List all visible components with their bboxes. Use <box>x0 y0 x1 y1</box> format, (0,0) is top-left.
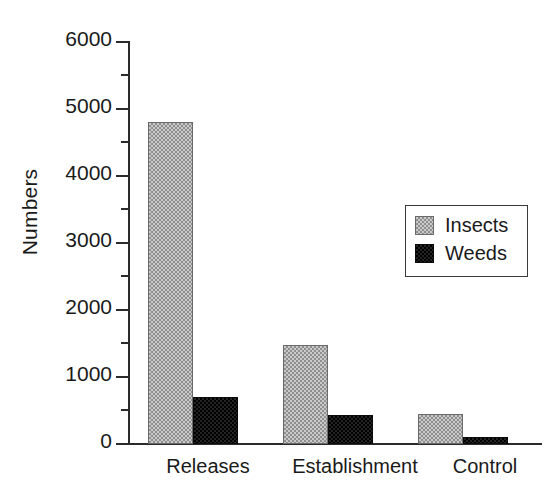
y-tick-label: 2000 <box>4 296 116 317</box>
y-tick-label: 6000 <box>4 28 116 49</box>
legend-label: Weeds <box>445 243 507 263</box>
y-tick-label: 0 <box>4 430 116 451</box>
y-tick-label: 4000 <box>4 162 116 183</box>
legend-item-insects: Insects <box>415 214 508 236</box>
y-minor-tick <box>121 275 129 277</box>
legend-label: Insects <box>445 215 508 235</box>
y-minor-tick <box>121 208 129 210</box>
y-tick-label: 3000 <box>4 229 116 250</box>
y-minor-tick <box>121 342 129 344</box>
y-minor-tick <box>121 74 129 76</box>
bar-insects-control <box>418 414 463 444</box>
bar-weeds-control <box>463 437 508 444</box>
y-minor-tick <box>121 141 129 143</box>
y-tick-label: 5000 <box>4 95 116 116</box>
bar-chart: Numbers 6000 5000 4000 3000 2000 1000 0 <box>0 0 554 490</box>
bar-insects-establishment <box>283 345 328 444</box>
x-category-label-establishment: Establishment <box>270 455 440 478</box>
gray-stipple-swatch-icon <box>415 216 434 235</box>
y-tick-label: 1000 <box>4 363 116 384</box>
legend: Insects Weeds <box>405 205 528 277</box>
bar-insects-releases <box>148 122 193 444</box>
x-category-label-releases: Releases <box>148 455 268 478</box>
legend-item-weeds: Weeds <box>415 242 507 264</box>
bar-weeds-releases <box>193 397 238 444</box>
y-minor-tick <box>121 409 129 411</box>
black-solid-swatch-icon <box>415 244 434 263</box>
x-category-label-control: Control <box>425 455 545 478</box>
bar-weeds-establishment <box>328 415 373 444</box>
